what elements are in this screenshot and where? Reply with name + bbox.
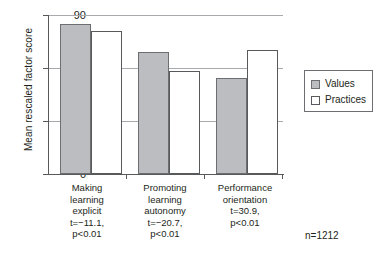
x-category-line: autonomy: [126, 205, 204, 217]
x-category-label-3: Performance orientation t=30.9, p<0.01: [204, 182, 286, 228]
x-category-label-2: Promoting learning autonomy t=−20.7, p<0…: [126, 182, 204, 240]
gridline-90: [48, 15, 283, 16]
x-category-line: explicit: [48, 205, 126, 217]
x-category-line: Performance: [204, 182, 286, 194]
x-category-line: learning: [126, 194, 204, 206]
x-tick-2: [204, 174, 205, 179]
legend: Values Practices: [304, 70, 373, 112]
x-category-label-1: Making learning explicit t=−11.1, p<0.01: [48, 182, 126, 240]
y-axis-title: Mean rescaled factor score: [23, 10, 34, 170]
bar-practices-making-learning-explicit: [91, 31, 122, 174]
x-tick-1: [126, 174, 127, 179]
legend-swatch-practices-icon: [311, 96, 320, 105]
bar-values-making-learning-explicit: [60, 24, 91, 174]
x-category-stat: p<0.01: [126, 228, 204, 240]
x-category-stat: p<0.01: [48, 228, 126, 240]
sample-size-note: n=1212: [305, 231, 339, 241]
x-category-stat: t=30.9,: [204, 205, 286, 217]
x-category-stat: t=−20.7,: [126, 217, 204, 229]
x-axis-line: [48, 174, 284, 175]
legend-swatch-values-icon: [311, 80, 320, 89]
x-category-line: learning: [48, 194, 126, 206]
x-category-line: Promoting: [126, 182, 204, 194]
x-category-stat: p<0.01: [204, 217, 286, 229]
legend-label-practices: Practices: [325, 95, 366, 105]
y-axis-line: [48, 15, 49, 175]
figure-bar-chart: Mean rescaled factor score 90 60 30 0 Ma…: [0, 0, 380, 256]
legend-item-practices: Practices: [311, 95, 366, 105]
plot-area: [48, 15, 283, 174]
x-tick-3: [282, 174, 283, 179]
bar-values-performance-orientation: [216, 78, 247, 174]
legend-item-values: Values: [311, 79, 355, 89]
x-category-line: orientation: [204, 194, 286, 206]
bar-values-promoting-learning-autonomy: [138, 52, 169, 174]
bar-practices-performance-orientation: [247, 50, 278, 174]
legend-label-values: Values: [325, 79, 355, 89]
bar-practices-promoting-learning-autonomy: [169, 71, 200, 174]
x-category-line: Making: [48, 182, 126, 194]
x-category-stat: t=−11.1,: [48, 217, 126, 229]
